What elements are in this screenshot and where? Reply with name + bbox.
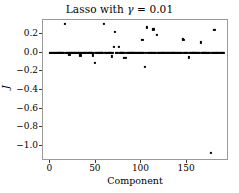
y-tick-label: 0.0 [24,47,38,56]
y-tick-label: −1.0 [16,141,38,150]
y-tick-label: −0.2 [16,66,38,75]
y-tick-label: −0.4 [16,85,38,94]
data-point [92,54,94,56]
data-point [111,55,113,57]
data-point [222,52,224,54]
data-point [210,152,212,154]
data-point [188,56,190,58]
x-tick-label: 50 [89,163,100,173]
y-tick-label: 0.2 [24,29,38,38]
data-point [213,29,215,31]
data-point [94,62,96,64]
y-tick-label: −0.8 [16,122,38,131]
chart-figure: Lasso with γ = 0.01 0.20.0−0.2−0.4−0.6−0… [0,0,239,193]
data-point [118,46,120,48]
data-point [113,46,115,48]
data-point [79,54,81,56]
data-point [68,53,70,55]
y-tick-label: −0.6 [16,103,38,112]
data-point [182,39,184,41]
chart-title-suffix: = 0.01 [134,3,174,15]
x-tick-label: 0 [46,163,52,173]
data-point [64,23,66,25]
data-point [125,57,127,59]
x-tick-label: 150 [177,163,194,173]
plot-area [42,19,228,160]
data-point [146,26,148,28]
data-point [200,41,202,43]
data-point [156,34,158,36]
data-point [103,23,105,25]
y-axis-label: J [1,85,11,89]
x-axis-label: Component [42,175,228,186]
data-point [152,28,154,30]
y-axis-tick-labels: 0.20.0−0.2−0.4−0.6−0.8−1.0 [0,0,38,193]
x-tick-label: 100 [132,163,149,173]
data-point [114,31,116,33]
data-point [144,66,146,68]
chart-title-prefix: Lasso with [66,3,127,15]
data-point [141,39,143,41]
